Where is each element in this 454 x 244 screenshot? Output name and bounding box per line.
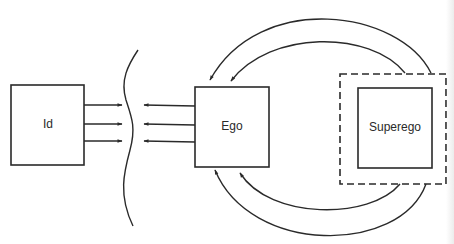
arc-arrow-icon (240, 173, 400, 210)
id-arrows (84, 105, 122, 141)
ego-arrows (144, 105, 195, 142)
id-label: Id (43, 117, 53, 131)
ego-label: Ego (221, 119, 243, 133)
id-node: Id (11, 85, 84, 165)
psyche-diagram: Id Ego Superego (0, 0, 454, 244)
ego-node: Ego (195, 87, 269, 167)
superego-label: Superego (369, 120, 421, 134)
scan-edge-shadow (446, 0, 454, 244)
bottom-arcs (215, 170, 426, 236)
arc-arrow-icon (231, 42, 405, 81)
barrier-wavy-line (124, 50, 138, 226)
arc-arrow-icon (210, 19, 431, 80)
arrow-left-icon (144, 141, 195, 142)
top-arcs (210, 19, 431, 81)
superego-node: Superego (340, 74, 446, 184)
arrow-left-icon (144, 105, 195, 106)
arrow-left-icon (144, 124, 195, 125)
arc-arrow-icon (215, 170, 426, 236)
